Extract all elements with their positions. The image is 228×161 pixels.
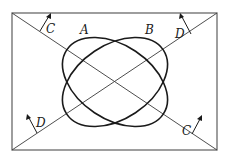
label-d-bottom-left: D <box>35 116 46 130</box>
label-ellipse-b: B <box>144 23 154 37</box>
label-d-top-right: D <box>174 27 185 41</box>
arrow-c-bottom-right-icon <box>192 115 202 134</box>
label-c-bottom-right: C <box>182 124 191 138</box>
label-ellipse-a: A <box>79 23 89 37</box>
ellipse-diagram: C D D C A B <box>0 0 228 161</box>
label-c-top-left: C <box>46 22 55 36</box>
